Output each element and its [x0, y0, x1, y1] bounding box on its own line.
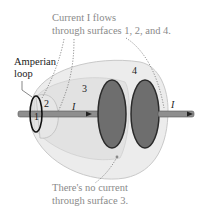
loop-label-line1: Amperian [14, 56, 56, 68]
leader-loop [22, 81, 32, 97]
surface-4-label: 4 [132, 65, 137, 76]
surface-3-label: 3 [82, 83, 87, 94]
annotation-bottom-line1: There's no current [52, 182, 128, 194]
annotation-top-line1: Current I flows [52, 12, 116, 24]
current-label-right: I [170, 99, 175, 110]
surface-1-label: 1 [34, 111, 39, 122]
loop-label-line2: loop [14, 68, 33, 80]
wire-left [18, 111, 110, 117]
current-label-left: I [71, 101, 76, 112]
capacitor-plate-right [131, 80, 159, 148]
annotation-top-line2: through surfaces 1, 2, and 4. [52, 25, 171, 37]
annotation-bottom-line2: through surface 3. [52, 195, 128, 207]
surface-2-label: 2 [44, 98, 49, 109]
capacitor-plate-left [98, 80, 126, 148]
